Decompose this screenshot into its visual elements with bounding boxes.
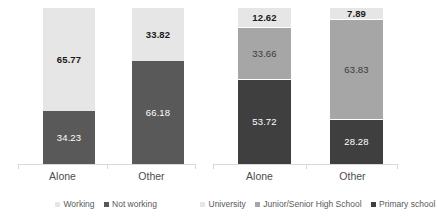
bar-alone-working[interactable]: 65.77 34.23 xyxy=(43,8,95,164)
chart-panel-education-level: 12.62 33.66 53.72 7.89 63.83 28.28 xyxy=(210,0,437,217)
bar-value-label: 63.83 xyxy=(344,65,368,75)
legend-item-not-working[interactable]: Not working xyxy=(104,200,157,209)
bar-alone-education[interactable]: 12.62 33.66 53.72 xyxy=(238,8,291,164)
legend-education-level: University Junior/Senior High School Pri… xyxy=(200,197,435,211)
legend-swatch-icon xyxy=(255,202,260,207)
bar-segment-alone-university[interactable]: 12.62 xyxy=(238,8,291,28)
legend-swatch-icon xyxy=(200,202,205,207)
x-tick-label-alone: Alone xyxy=(18,170,107,182)
bar-value-label: 34.23 xyxy=(57,133,81,143)
bar-value-label: 33.66 xyxy=(252,49,276,59)
bar-segment-other-university[interactable]: 7.89 xyxy=(330,8,383,20)
x-tick-label-alone: Alone xyxy=(213,170,306,182)
legend-swatch-icon xyxy=(55,202,60,207)
x-axis-category-labels: Alone Other xyxy=(210,170,437,186)
stacked-bar-chart-figure: 65.77 34.23 33.82 66.18 Alone xyxy=(0,0,437,217)
legend-label: Not working xyxy=(112,200,157,209)
bar-segment-alone-high-school[interactable]: 33.66 xyxy=(238,28,291,81)
x-tick-label-other: Other xyxy=(107,170,196,182)
bar-segment-other-high-school[interactable]: 63.83 xyxy=(330,20,383,120)
legend-item-high-school[interactable]: Junior/Senior High School xyxy=(255,200,362,209)
axis-tick-end xyxy=(195,165,196,169)
axis-tick-middle xyxy=(107,165,108,169)
bar-segment-other-primary-school[interactable]: 28.28 xyxy=(330,120,383,164)
legend-item-working[interactable]: Working xyxy=(55,200,95,209)
bar-other-working[interactable]: 33.82 66.18 xyxy=(132,8,184,164)
legend-label: University xyxy=(209,200,246,209)
legend-item-university[interactable]: University xyxy=(200,200,246,209)
bar-value-label: 66.18 xyxy=(146,108,170,118)
bar-segment-other-not-working[interactable]: 66.18 xyxy=(132,61,184,164)
x-tick-label-other: Other xyxy=(306,170,399,182)
axis-tick-end xyxy=(397,165,398,169)
plot-area-working-status: 65.77 34.23 33.82 66.18 xyxy=(18,8,196,165)
legend-item-primary-school[interactable]: Primary school xyxy=(371,200,436,209)
bar-value-label: 12.62 xyxy=(252,13,276,23)
bar-value-label: 53.72 xyxy=(252,117,276,127)
legend-label: Junior/Senior High School xyxy=(263,200,361,209)
axis-tick-start xyxy=(213,165,214,169)
bar-segment-other-working[interactable]: 33.82 xyxy=(132,8,184,61)
bar-segment-alone-primary-school[interactable]: 53.72 xyxy=(238,80,291,164)
bar-other-education[interactable]: 7.89 63.83 28.28 xyxy=(330,8,383,164)
legend-swatch-icon xyxy=(104,202,109,207)
bar-value-label: 7.89 xyxy=(347,9,366,19)
bar-value-label: 28.28 xyxy=(344,137,368,147)
bar-value-label: 33.82 xyxy=(146,30,170,40)
axis-tick-middle xyxy=(306,165,307,169)
plot-area-education-level: 12.62 33.66 53.72 7.89 63.83 28.28 xyxy=(213,8,398,165)
x-axis-category-labels: Alone Other xyxy=(0,170,210,186)
chart-panel-working-status: 65.77 34.23 33.82 66.18 Alone xyxy=(0,0,210,217)
axis-tick-start xyxy=(18,165,19,169)
bar-segment-alone-working[interactable]: 65.77 xyxy=(43,8,95,111)
bar-value-label: 65.77 xyxy=(57,55,81,65)
legend-swatch-icon xyxy=(371,202,376,207)
legend-working-status: Working Not working xyxy=(55,197,157,211)
legend-label: Working xyxy=(64,200,95,209)
legend-label: Primary school xyxy=(379,200,435,209)
bar-segment-alone-not-working[interactable]: 34.23 xyxy=(43,111,95,164)
